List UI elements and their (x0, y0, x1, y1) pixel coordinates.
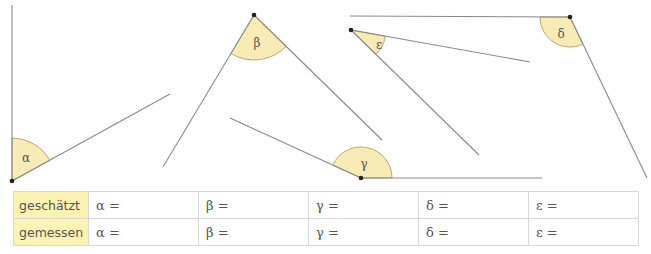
row-label-measured: gemessen (14, 219, 89, 246)
alpha-vertex (10, 179, 15, 184)
measured-epsilon-cell[interactable]: ε = (529, 219, 639, 246)
angle-measurement-table: geschätzt α = β = γ = δ = ε = gemessen α… (13, 191, 639, 246)
alpha-ray-diagonal (12, 94, 170, 181)
row-label-estimated: geschätzt (14, 192, 89, 219)
angle-beta: β (163, 13, 382, 167)
measured-beta-cell[interactable]: β = (199, 219, 309, 246)
measured-alpha-cell[interactable]: α = (89, 219, 199, 246)
beta-ray-left (163, 15, 254, 167)
epsilon-ray-lower (351, 30, 479, 155)
measured-gamma-cell[interactable]: γ = (309, 219, 419, 246)
estimated-delta-cell[interactable]: δ = (419, 192, 529, 219)
delta-ray-diagonal (570, 17, 647, 178)
gamma-label: γ (360, 157, 367, 171)
gamma-vertex (359, 176, 364, 181)
delta-ray-horizontal (350, 16, 570, 17)
beta-label: β (254, 36, 261, 50)
angle-alpha: α (10, 5, 170, 183)
delta-label: δ (557, 27, 564, 41)
estimated-epsilon-cell[interactable]: ε = (529, 192, 639, 219)
estimated-beta-cell[interactable]: β = (199, 192, 309, 219)
alpha-sector (12, 138, 50, 181)
epsilon-label: ε (376, 38, 382, 52)
estimated-gamma-cell[interactable]: γ = (309, 192, 419, 219)
gamma-ray-left (230, 118, 361, 178)
beta-vertex (252, 13, 257, 18)
measured-delta-cell[interactable]: δ = (419, 219, 529, 246)
estimated-alpha-cell[interactable]: α = (89, 192, 199, 219)
delta-vertex (568, 15, 573, 20)
angle-figure: α β γ δ ε (0, 0, 651, 190)
alpha-label: α (22, 151, 30, 165)
angle-gamma: γ (230, 118, 542, 180)
angle-delta: δ (350, 15, 647, 178)
table-row-measured: gemessen α = β = γ = δ = ε = (14, 219, 639, 246)
epsilon-vertex (349, 28, 354, 33)
table-row-estimated: geschätzt α = β = γ = δ = ε = (14, 192, 639, 219)
angle-epsilon: ε (349, 28, 530, 155)
